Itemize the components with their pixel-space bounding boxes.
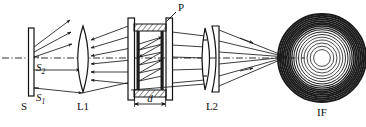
internal-reflection-8: [139, 60, 162, 73]
source-point-upper-label: S2: [36, 61, 46, 76]
internal-reflection-10: [139, 68, 162, 81]
fringe-ring: [290, 26, 354, 90]
interference-fringe-pattern: [278, 14, 366, 102]
internal-reflection-6: [139, 52, 162, 65]
fringe-ring: [301, 37, 343, 79]
lens-two-element-front: [202, 28, 210, 90]
etalon-plate-right: [166, 18, 173, 100]
converging-ray-6: [219, 57, 287, 86]
multiple-reflection-rays: [139, 37, 162, 81]
converging-ray-arrow-upper: [240, 38, 253, 43]
fringe-ring: [314, 50, 331, 67]
source-ray-upper-3: [34, 44, 72, 57]
gap-distance-label: d: [147, 92, 153, 104]
source-point-lower-label: S1: [36, 91, 45, 106]
internal-reflection-3: [139, 44, 162, 50]
etalon-plate-label: P: [178, 1, 184, 13]
internal-reflection-11: [139, 76, 162, 81]
collimated-ray-4: [91, 60, 131, 64]
internal-reflection-7: [139, 60, 162, 65]
etalon-assembly: [128, 18, 173, 100]
lens-one-body: [78, 26, 89, 92]
internal-reflection-1: [139, 37, 162, 44]
source-plate-label: S: [21, 100, 27, 112]
fringe-ring: [299, 35, 346, 82]
fringe-ring: [287, 23, 357, 93]
marginal-ray-lower: [82, 82, 131, 93]
emergent-ray-2: [172, 45, 205, 47]
collimated-ray-3: [91, 48, 131, 56]
emergent-ray-5: [172, 80, 205, 83]
fringe-ring: [304, 40, 340, 76]
internal-reflection-4: [139, 44, 162, 57]
collimated-ray-bundle: [82, 25, 131, 93]
fringe-pattern-label: IF: [317, 106, 327, 118]
lens-two-element-rear: [212, 26, 219, 92]
fringe-ring: [307, 43, 337, 73]
lens-one-label: L1: [77, 100, 89, 112]
lens-two-label: L2: [206, 100, 218, 112]
internal-reflection-9: [139, 68, 162, 73]
source-ray-upper-1: [34, 20, 70, 47]
source-ray-upper-2: [34, 32, 71, 52]
source-plate: [29, 28, 35, 96]
lens-one-assembly: [78, 26, 89, 92]
emergent-ray-1: [172, 32, 205, 36]
internal-reflection-2: [139, 37, 162, 50]
converging-ray-5: [219, 57, 287, 76]
optical-diagram-figure: S2 S1 S L1: [0, 0, 366, 127]
lens-two-assembly: [202, 26, 219, 92]
emergent-ray-4: [172, 69, 205, 70]
internal-reflection-5: [139, 52, 162, 57]
ray-diagram-canvas: S2 S1 S L1: [0, 0, 366, 127]
etalon-spacer-top: [134, 24, 166, 31]
